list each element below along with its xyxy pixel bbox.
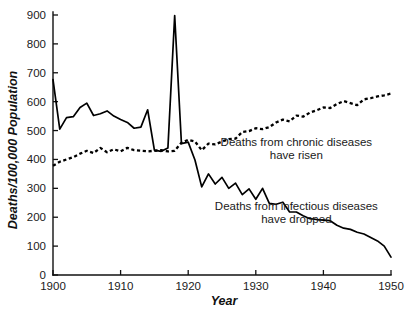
y-tick-label: 500: [27, 125, 46, 137]
infectious-annotation-line2: have dropped: [261, 213, 331, 225]
chronic-annotation-line1: Deaths from chronic diseases: [221, 136, 373, 148]
y-tick-label: 800: [27, 38, 46, 50]
y-tick-label: 600: [27, 96, 46, 108]
y-tick-label: 300: [27, 182, 46, 194]
infectious-annotation-line1: Deaths from infectious diseases: [215, 200, 378, 212]
y-tick-label: 200: [27, 211, 46, 223]
y-axis-tick-labels: 0100200300400500600700800900: [27, 9, 46, 281]
y-tick-label: 900: [27, 9, 46, 21]
x-tick-label: 1900: [40, 280, 66, 292]
x-tick-label: 1910: [108, 280, 134, 292]
x-tick-label: 1920: [175, 280, 201, 292]
line-chart: 0100200300400500600700800900 19001910192…: [0, 0, 414, 319]
x-axis-ticks: [53, 270, 391, 275]
y-axis-ticks: [53, 15, 58, 275]
x-axis-title: Year: [211, 294, 239, 308]
x-tick-label: 1950: [378, 280, 404, 292]
chronic-annotation-line2: have risen: [270, 149, 323, 161]
y-tick-label: 700: [27, 67, 46, 79]
x-tick-label: 1930: [243, 280, 269, 292]
y-tick-label: 400: [27, 153, 46, 165]
series-line-chronic-diseases: [53, 94, 391, 166]
x-axis-tick-labels: 190019101920193019401950: [40, 280, 404, 292]
chart-figure: 0100200300400500600700800900 19001910192…: [0, 0, 414, 319]
x-tick-label: 1940: [311, 280, 337, 292]
chronic-annotation: Deaths from chronic diseases have risen: [221, 136, 373, 161]
y-axis-title: Deaths/100,000 Population: [6, 70, 20, 229]
y-tick-label: 100: [27, 240, 46, 252]
infectious-annotation: Deaths from infectious diseases have dro…: [215, 200, 378, 225]
